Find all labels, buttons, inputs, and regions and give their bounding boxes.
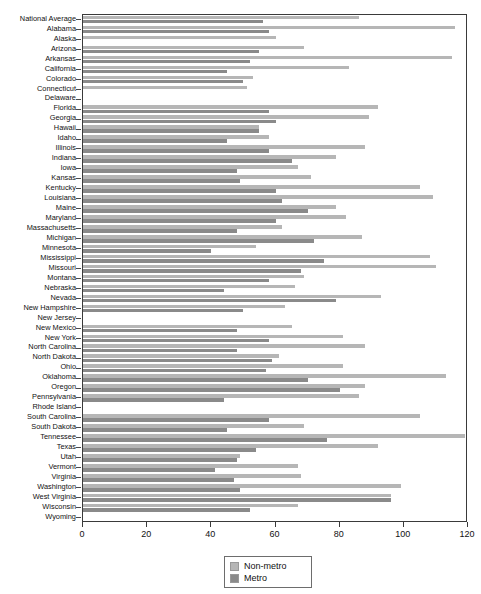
y-axis-tick [76,198,81,199]
bar-row [83,424,466,434]
y-axis-label: New Jersey [37,314,76,322]
bar-metro [83,189,276,193]
y-axis-label: Rhode Island [32,403,76,411]
y-axis-tick [76,258,81,259]
y-axis-tick [76,49,81,50]
bar-row [83,374,466,384]
y-axis-label: Minnesota [42,244,76,252]
bar-non-metro [83,265,436,269]
bar-row [83,175,466,185]
bar-row [83,245,466,255]
y-axis-tick [76,99,81,100]
bar-non-metro [83,384,365,388]
bar-metro [83,169,237,173]
legend-swatch-non-metro-icon [230,562,239,571]
bar-row [83,364,466,374]
y-axis-label: Alabama [47,25,76,33]
bar-row [83,404,466,414]
bar-metro [83,398,224,402]
bar-non-metro [83,434,465,438]
y-axis-label: Montana [47,274,76,282]
bar-metro [83,299,336,303]
bar-non-metro [83,155,336,159]
bar-non-metro [83,325,292,329]
bar-metro [83,149,269,153]
y-axis-label: Massachusetts [27,224,76,232]
bar-row [83,394,466,404]
bar-row [83,474,466,484]
bar-metro [83,70,227,74]
bar-row [83,314,466,324]
bar-non-metro [83,66,349,70]
bar-non-metro [83,255,430,259]
x-axis-tick [403,522,404,527]
y-axis-label: Oklahoma [42,373,76,381]
bar-non-metro [83,46,304,50]
y-axis-label: Louisiana [44,194,76,202]
y-axis-label: New Mexico [36,324,76,332]
y-axis-tick [76,437,81,438]
y-axis-tick [76,39,81,40]
y-axis-tick [76,119,81,120]
bar-metro [83,369,266,373]
y-axis-label: Arizona [51,45,76,53]
y-axis-tick [76,388,81,389]
bar-row [83,295,466,305]
y-axis-tick [76,348,81,349]
y-axis-tick [76,238,81,239]
x-axis-tick-label: 0 [79,529,84,540]
y-axis-tick [76,397,81,398]
bar-row [83,504,466,514]
y-axis-tick [76,79,81,80]
y-axis-label: South Dakota [31,423,76,431]
legend-swatch-metro-icon [230,574,239,583]
bar-metro [83,378,308,382]
y-axis-label: Nevada [51,294,76,302]
y-axis-label: Kansas [51,174,76,182]
bar-row [83,105,466,115]
bar-metro [83,349,237,353]
y-axis-label: New Hampshire [23,304,76,312]
y-axis-label: Wisconsin [42,503,76,511]
x-axis-tick-label: 80 [334,529,344,540]
x-axis-tick [467,522,468,527]
y-axis-tick [76,427,81,428]
y-axis-tick [76,378,81,379]
bar-row [83,235,466,245]
y-axis-tick [76,218,81,219]
y-axis-tick [76,188,81,189]
bar-non-metro [83,285,295,289]
bar-metro [83,179,240,183]
y-axis-label: Illinois [55,144,76,152]
bar-row [83,354,466,364]
plot-area [82,14,467,522]
bar-row [83,165,466,175]
y-axis-tick [76,129,81,130]
bar-non-metro [83,374,446,378]
bar-row [83,16,466,26]
y-axis-tick [76,278,81,279]
bar-non-metro [83,115,369,119]
bar-non-metro [83,175,311,179]
bar-metro [83,428,227,432]
bar-row [83,444,466,454]
y-axis-tick [76,89,81,90]
y-axis-label: Vermont [48,463,76,471]
bar-metro [83,110,269,114]
y-axis-label: South Carolina [27,413,76,421]
y-axis-tick [76,517,81,518]
bar-non-metro [83,105,378,109]
bar-non-metro [83,16,359,20]
y-axis-tick [76,497,81,498]
y-axis-tick [76,507,81,508]
bar-row [83,155,466,165]
y-axis-labels: National AverageAlabamaAlaskaArizonaArka… [0,14,76,522]
bar-metro [83,219,276,223]
y-axis-label: Hawaii [54,124,76,132]
y-axis-label: Connecticut [37,85,76,93]
y-axis-tick [76,158,81,159]
x-axis-tick-label: 100 [395,529,410,540]
y-axis-label: Ohio [60,363,76,371]
x-axis-ticks [82,522,467,528]
x-axis-tick-label: 20 [141,529,151,540]
